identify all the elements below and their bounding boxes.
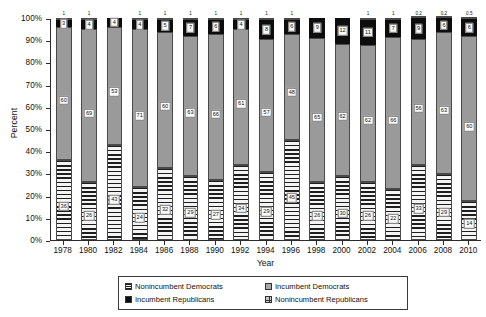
stacked-bar: 266941: [81, 19, 97, 240]
bar-segment[interactable]: [436, 32, 452, 174]
bar-segment-label: 11: [363, 28, 373, 38]
bar-segment-label: 7: [390, 24, 398, 34]
bar-segment[interactable]: [259, 39, 275, 172]
bar-segment[interactable]: [56, 160, 72, 240]
bar-segment[interactable]: [335, 44, 351, 176]
bar-segment-label: 0.2: [441, 12, 447, 17]
bar-segment-label: 22: [388, 214, 399, 224]
bar-column[interactable]: 296371: [183, 19, 199, 240]
bar-segment[interactable]: [157, 32, 173, 168]
stacked-bar: 454861: [284, 19, 300, 240]
bar-column[interactable]: 247141: [132, 19, 148, 240]
bar-column[interactable]: 26659: [309, 19, 325, 240]
bar-segment-label: 6: [212, 22, 220, 32]
bar-segment-label: 36: [58, 202, 69, 212]
bar-column[interactable]: 335690.2: [411, 19, 427, 240]
x-axis-tick-mark: [189, 241, 190, 245]
x-axis-tick-label: 2002: [358, 246, 376, 255]
bar-segment-label: 3: [60, 19, 68, 29]
bar-segment[interactable]: [385, 37, 401, 190]
bar-segment-label: 53: [109, 87, 120, 97]
legend-swatch-icon: [265, 283, 272, 290]
x-axis-tick-label: 2008: [434, 246, 452, 255]
bar-segment[interactable]: [411, 165, 427, 240]
stacked-bar: 295781: [259, 19, 275, 240]
bar-segment-label: 1: [164, 12, 167, 17]
bar-segment[interactable]: [309, 38, 325, 182]
bar-column[interactable]: 306212: [335, 19, 351, 240]
chart-legend: Nonincumbent DemocratsIncumbent Democrat…: [118, 276, 408, 310]
legend-item-label: Nonincumbent Democrats: [135, 282, 223, 291]
legend-item[interactable]: Incumbent Republicans: [125, 295, 261, 306]
bar-segment[interactable]: [233, 165, 249, 240]
x-axis-tick-mark: [139, 241, 140, 245]
x-axis-tick-label: 1984: [130, 246, 148, 255]
bar-segment-label: 56: [413, 104, 424, 114]
bar-segment-label: 1: [392, 12, 395, 17]
bar-column[interactable]: 146060.5: [461, 19, 477, 240]
bar-segment[interactable]: [284, 140, 300, 240]
bar-segment[interactable]: [208, 34, 224, 181]
bar-column[interactable]: 2662111: [360, 19, 376, 240]
bar-segment[interactable]: [208, 18, 224, 20]
bar-segment[interactable]: [107, 27, 123, 145]
bar-segment[interactable]: [360, 45, 376, 183]
bar-segment-label: 62: [363, 116, 374, 126]
bar-column[interactable]: 266941: [81, 19, 97, 240]
bar-column[interactable]: 454861: [284, 19, 300, 240]
stacked-bar: 296360.2: [436, 19, 452, 240]
legend-item[interactable]: Nonincumbent Democrats: [125, 281, 261, 292]
y-axis-tick-label: 0%: [30, 236, 42, 246]
bar-column[interactable]: 296360.2: [436, 19, 452, 240]
bar-segment-label: 33: [413, 204, 424, 214]
stacked-bar: 146060.5: [461, 19, 477, 240]
legend-item[interactable]: Incumbent Democrats: [265, 281, 401, 292]
y-axis-tick-label: 50%: [26, 125, 42, 135]
y-axis-tick-label: 20%: [26, 192, 42, 202]
bar-segment[interactable]: [56, 27, 72, 160]
bar-segment[interactable]: [284, 18, 300, 20]
bar-column[interactable]: 43534: [107, 19, 123, 240]
bar-segment[interactable]: [259, 18, 275, 20]
legend-item-label: Incumbent Republicans: [135, 295, 214, 304]
x-axis-tick-mark: [418, 241, 419, 245]
bar-segment[interactable]: [461, 17, 477, 19]
y-axis-tick-layer: 0%10%20%30%40%50%60%70%80%90%100%: [0, 0, 50, 317]
x-axis-tick-mark: [113, 241, 114, 245]
bar-segment[interactable]: [81, 29, 97, 182]
bar-segment[interactable]: [157, 18, 173, 20]
bar-segment[interactable]: [107, 145, 123, 240]
x-axis-tick-label: 1982: [104, 246, 122, 255]
bar-column[interactable]: 276661: [208, 19, 224, 240]
bar-segment-label: 60: [464, 122, 475, 132]
x-axis-tick-mark: [63, 241, 64, 245]
stacked-bar: 2662111: [360, 19, 376, 240]
bar-segment[interactable]: [183, 18, 199, 20]
bar-segment-label: 1: [88, 12, 91, 17]
bar-segment-label: 26: [363, 211, 374, 221]
bar-segment-label: 32: [160, 205, 171, 215]
x-axis-tick-label: 1986: [155, 246, 173, 255]
bar-segment[interactable]: [461, 36, 477, 201]
bar-column[interactable]: 346141: [233, 19, 249, 240]
bar-segment[interactable]: [157, 168, 173, 240]
bar-segment[interactable]: [411, 39, 427, 166]
bar-segment-label: 29: [439, 208, 450, 218]
bar-segment[interactable]: [360, 18, 376, 20]
bar-segment-label: 6: [288, 22, 296, 32]
bar-segment[interactable]: [233, 29, 249, 164]
bar-segment-label: 60: [160, 102, 171, 112]
bar-column[interactable]: 326051: [157, 19, 173, 240]
bar-segment[interactable]: [385, 18, 401, 20]
bar-segment-label: 7: [187, 23, 195, 33]
bar-column[interactable]: 366031: [56, 19, 72, 240]
legend-item[interactable]: Nonincumbent Republicans: [265, 295, 401, 306]
y-axis-tick-label: 80%: [26, 58, 42, 68]
bar-segment-label: 1: [367, 12, 370, 17]
bar-segment[interactable]: [183, 36, 199, 176]
bar-column[interactable]: 295781: [259, 19, 275, 240]
bar-segment-label: 69: [84, 109, 95, 119]
bar-segment[interactable]: [132, 29, 148, 187]
bar-column[interactable]: 226671: [385, 19, 401, 240]
bar-segment-label: 1: [215, 12, 218, 17]
